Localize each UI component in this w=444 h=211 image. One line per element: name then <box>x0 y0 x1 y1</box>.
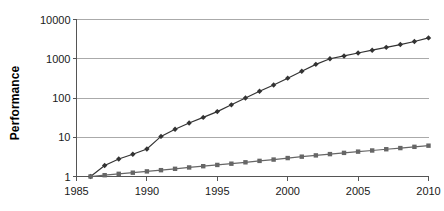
x-tick-label: 2000 <box>275 185 299 197</box>
x-tick-label: 2010 <box>416 185 440 197</box>
data-point-square <box>286 156 290 160</box>
data-series <box>88 35 431 179</box>
data-point-diamond <box>412 39 417 44</box>
data-point-diamond <box>243 95 248 100</box>
data-point-diamond <box>285 75 290 80</box>
data-point-square <box>215 163 219 167</box>
data-point-square <box>88 174 92 178</box>
data-point-square <box>271 157 275 161</box>
data-point-square <box>229 161 233 165</box>
data-point-square <box>187 165 191 169</box>
gridlines <box>77 20 429 177</box>
x-tick-label: 1990 <box>135 185 159 197</box>
data-point-diamond <box>299 69 304 74</box>
y-tick-label: 100 <box>20 92 71 104</box>
data-point-diamond <box>426 35 431 40</box>
data-point-diamond <box>369 48 374 53</box>
x-tick-label: 2005 <box>346 185 370 197</box>
data-point-diamond <box>257 89 262 94</box>
data-point-diamond <box>355 50 360 55</box>
data-point-diamond <box>384 45 389 50</box>
data-point-diamond <box>341 53 346 58</box>
data-point-diamond <box>398 42 403 47</box>
data-point-diamond <box>186 120 191 125</box>
data-point-square <box>159 168 163 172</box>
data-point-square <box>328 152 332 156</box>
data-point-square <box>131 170 135 174</box>
data-point-square <box>243 160 247 164</box>
data-point-diamond <box>229 102 234 107</box>
data-point-square <box>300 154 304 158</box>
data-point-diamond <box>313 62 318 67</box>
data-point-square <box>342 151 346 155</box>
data-point-square <box>314 153 318 157</box>
data-point-square <box>257 159 261 163</box>
data-point-diamond <box>327 56 332 61</box>
y-tick-label: 10 <box>20 131 71 143</box>
data-point-diamond <box>130 151 135 156</box>
data-point-diamond <box>215 109 220 114</box>
y-tick-label: 1 <box>20 171 71 183</box>
y-tick-label: 10000 <box>20 14 71 26</box>
data-point-square <box>412 145 416 149</box>
data-point-square <box>356 149 360 153</box>
data-point-square <box>102 173 106 177</box>
data-point-square <box>426 143 430 147</box>
y-tick-label: 1000 <box>20 53 71 65</box>
performance-chart: Performance 100001000100101 198519901995… <box>0 0 444 211</box>
data-point-square <box>117 172 121 176</box>
data-point-diamond <box>172 127 177 132</box>
data-point-square <box>398 146 402 150</box>
data-point-diamond <box>271 82 276 87</box>
x-tick-label: 1985 <box>64 185 88 197</box>
data-point-diamond <box>116 156 121 161</box>
data-point-square <box>384 147 388 151</box>
data-point-diamond <box>201 115 206 120</box>
data-point-square <box>173 167 177 171</box>
data-point-square <box>145 169 149 173</box>
data-point-square <box>201 164 205 168</box>
x-tick-label: 1995 <box>205 185 229 197</box>
data-point-square <box>370 148 374 152</box>
x-axis-ticks <box>77 177 429 181</box>
